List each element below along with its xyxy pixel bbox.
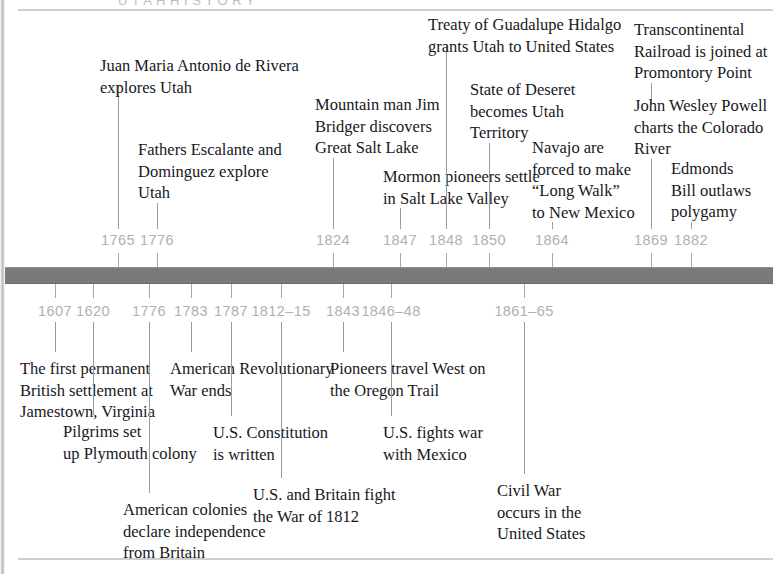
event-caption: Civil War occurs in the United States <box>497 480 585 545</box>
timeline-tick-lower <box>391 284 392 298</box>
timeline-tick-upper <box>691 253 692 267</box>
year-label-1843: 1843 <box>326 303 360 319</box>
event-caption: Navajo are forced to make “Long Walk” to… <box>532 137 635 223</box>
timeline-tick-upper <box>333 253 334 267</box>
timeline-tick-upper <box>552 253 553 267</box>
year-label-1848: 1848 <box>429 232 463 248</box>
event-caption: Fathers Escalante and Dominguez explore … <box>138 139 282 204</box>
event-leader-line <box>118 85 119 229</box>
timeline-tick-lower <box>343 284 344 298</box>
event-caption: Mountain man Jim Bridger discovers Great… <box>315 94 440 159</box>
event-leader-line <box>552 222 553 229</box>
event-caption: U.S. and Britain fight the War of 1812 <box>253 484 396 527</box>
year-label-186165: 1861–65 <box>494 303 553 319</box>
event-caption: American Revolutionary War ends <box>170 358 334 401</box>
year-label-1787: 1787 <box>214 303 248 319</box>
year-label-1783: 1783 <box>174 303 208 319</box>
timeline-tick-upper <box>489 253 490 267</box>
year-label-1776: 1776 <box>132 303 166 319</box>
event-leader-line <box>157 203 158 229</box>
event-caption: John Wesley Powell charts the Colorado R… <box>634 95 767 160</box>
event-leader-line <box>191 322 192 352</box>
event-caption: The first permanent British settlement a… <box>20 358 155 423</box>
event-leader-line <box>93 322 94 415</box>
event-leader-line <box>149 322 150 493</box>
event-leader-line <box>231 322 232 416</box>
event-caption: Pioneers travel West on the Oregon Trail <box>330 358 486 401</box>
event-caption: Treaty of Guadalupe Hidalgo grants Utah … <box>428 14 621 57</box>
timeline-tick-lower <box>281 284 282 298</box>
event-leader-line <box>333 158 334 229</box>
timeline-bar <box>5 267 773 284</box>
timeline-tick-upper <box>118 253 119 267</box>
event-caption: Edmonds Bill outlaws polygamy <box>671 158 751 223</box>
event-caption: State of Deseret becomes Utah Territory <box>470 79 575 144</box>
timeline-tick-upper <box>446 253 447 267</box>
year-label-1776: 1776 <box>140 232 174 248</box>
event-leader-line <box>281 322 282 478</box>
event-caption: American colonies declare independence f… <box>123 499 265 564</box>
page-scan-edge <box>0 0 5 574</box>
timeline-tick-lower <box>191 284 192 298</box>
page-header-text: U T A H H I S T O R Y <box>118 0 318 5</box>
timeline-tick-upper <box>651 253 652 267</box>
event-caption: Juan Maria Antonio de Rivera explores Ut… <box>100 55 299 98</box>
year-label-1864: 1864 <box>535 232 569 248</box>
timeline-tick-upper <box>400 253 401 267</box>
event-leader-line <box>489 143 490 229</box>
year-label-1824: 1824 <box>316 232 350 248</box>
timeline-page: U T A H H I S T O R Y 1765Juan Maria Ant… <box>0 0 773 574</box>
timeline-tick-upper <box>157 253 158 267</box>
event-leader-line <box>391 322 392 416</box>
event-leader-line <box>343 322 344 352</box>
event-leader-line <box>55 322 56 352</box>
timeline-tick-lower <box>149 284 150 298</box>
event-caption: U.S. fights war with Mexico <box>383 422 483 465</box>
timeline-tick-lower <box>93 284 94 298</box>
timeline-tick-lower <box>524 284 525 298</box>
event-leader-line <box>524 322 525 474</box>
event-caption: Transcontinental Railroad is joined at P… <box>634 19 767 84</box>
event-leader-line <box>651 159 652 229</box>
year-label-1847: 1847 <box>383 232 417 248</box>
event-leader-line <box>400 208 401 229</box>
event-caption: U.S. Constitution is written <box>213 422 328 465</box>
timeline-tick-lower <box>55 284 56 298</box>
year-label-1869: 1869 <box>634 232 668 248</box>
year-label-1607: 1607 <box>38 303 72 319</box>
event-caption: Pilgrims set up Plymouth colony <box>63 421 197 464</box>
year-label-1620: 1620 <box>76 303 110 319</box>
event-leader-line <box>691 222 692 229</box>
year-label-181215: 1812–15 <box>251 303 310 319</box>
header-rule <box>18 9 773 11</box>
year-label-1882: 1882 <box>674 232 708 248</box>
event-caption: Mormon pioneers settle in Salt Lake Vall… <box>383 166 540 209</box>
timeline-tick-lower <box>231 284 232 298</box>
year-label-184648: 1846–48 <box>361 303 420 319</box>
event-leader-line <box>446 44 447 229</box>
year-label-1850: 1850 <box>472 232 506 248</box>
year-label-1765: 1765 <box>101 232 135 248</box>
